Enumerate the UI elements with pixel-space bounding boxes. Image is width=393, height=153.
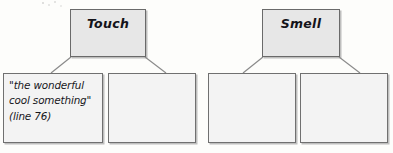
evidence-box-smell-1[interactable] [208, 73, 296, 143]
evidence-box-touch-2[interactable] [108, 73, 196, 143]
evidence-text-touch-1: "the wonderful cool something" (line 76) [9, 78, 98, 124]
connector-smell-right [339, 57, 360, 73]
header-label-touch: Touch [71, 16, 145, 31]
evidence-box-smell-2[interactable] [300, 73, 388, 143]
header-box-touch[interactable]: Touch [70, 9, 146, 57]
header-label-smell: Smell [263, 16, 339, 31]
header-box-smell[interactable]: Smell [262, 9, 340, 57]
worksheet-page: Touch "the wonderful cool something" (li… [0, 0, 393, 153]
evidence-box-touch-1[interactable]: "the wonderful cool something" (line 76) [3, 73, 103, 143]
scan-artifact-speckle [40, 1, 66, 8]
connector-smell-left [243, 57, 263, 73]
connector-touch-left [51, 57, 71, 73]
connector-touch-right [145, 57, 166, 73]
